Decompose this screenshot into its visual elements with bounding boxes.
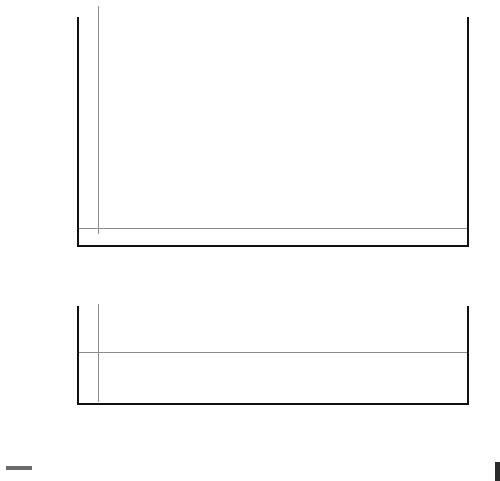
- x-zero-reference-line: [98, 6, 99, 234]
- residual-y-zero-reference-line: [78, 352, 468, 353]
- y-zero-reference-line: [78, 228, 468, 229]
- residual-x-axis-spine: [77, 403, 469, 405]
- residual-x-zero-reference-line: [98, 304, 99, 402]
- residual-vs-police-panel: [0, 285, 500, 481]
- figure-root: [0, 0, 500, 481]
- crime-x-axis-spine: [77, 245, 469, 247]
- legend-line-swatch: [6, 466, 32, 470]
- residual-y-axis-spine: [77, 306, 79, 404]
- residual-right-spine: [467, 306, 469, 404]
- crime-y-axis-spine: [77, 17, 79, 246]
- residual-plot-area: [78, 307, 468, 397]
- crime-vs-police-panel: [0, 0, 500, 285]
- page-corner-mark: [495, 462, 500, 481]
- regression-legend: [6, 455, 498, 481]
- crime-plot-area: [78, 18, 468, 228]
- crime-right-spine: [467, 17, 469, 246]
